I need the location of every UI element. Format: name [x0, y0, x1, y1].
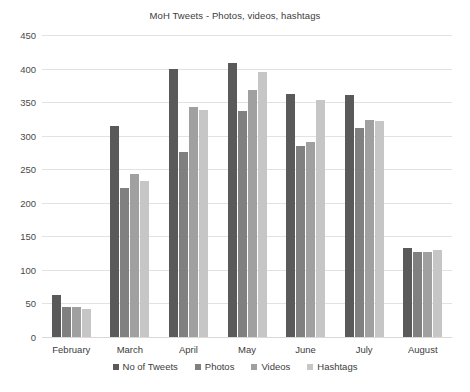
- bar[interactable]: [189, 107, 198, 337]
- y-axis-tick-label: 250: [0, 164, 36, 175]
- bar-group: June: [276, 35, 335, 337]
- legend-label: Hashtags: [317, 361, 357, 372]
- bars: [159, 35, 218, 337]
- bar[interactable]: [423, 252, 432, 337]
- bar[interactable]: [62, 307, 71, 337]
- legend-label: No of Tweets: [123, 361, 178, 372]
- bar[interactable]: [140, 181, 149, 337]
- bars: [276, 35, 335, 337]
- bar[interactable]: [375, 121, 384, 337]
- y-axis-tick-label: 50: [0, 298, 36, 309]
- chart-title: MoH Tweets - Photos, videos, hashtags: [0, 10, 470, 21]
- bar-group: April: [159, 35, 218, 337]
- bar[interactable]: [258, 72, 267, 337]
- bar-group: July: [335, 35, 394, 337]
- chart-legend: No of TweetsPhotosVideosHashtags: [0, 361, 470, 372]
- bar[interactable]: [433, 250, 442, 337]
- bar[interactable]: [110, 126, 119, 337]
- y-axis-tick-label: 300: [0, 130, 36, 141]
- bar[interactable]: [199, 110, 208, 337]
- bar[interactable]: [316, 100, 325, 337]
- bars: [42, 35, 101, 337]
- legend-item[interactable]: Photos: [195, 361, 235, 372]
- bar[interactable]: [179, 152, 188, 337]
- bar[interactable]: [355, 128, 364, 337]
- x-axis-tick-label: February: [42, 344, 101, 355]
- bar[interactable]: [228, 63, 237, 337]
- x-axis-tick-label: July: [335, 344, 394, 355]
- bars: [101, 35, 160, 337]
- legend-swatch-icon: [195, 364, 201, 370]
- bar-chart: MoH Tweets - Photos, videos, hashtags 05…: [0, 0, 470, 392]
- y-axis-tick-label: 150: [0, 231, 36, 242]
- bar-group: May: [218, 35, 277, 337]
- legend-swatch-icon: [251, 364, 257, 370]
- x-axis-tick-label: March: [101, 344, 160, 355]
- plot-area: FebruaryMarchAprilMayJuneJulyAugust: [42, 35, 452, 337]
- bar[interactable]: [248, 90, 257, 337]
- bar[interactable]: [52, 295, 61, 337]
- bar[interactable]: [238, 111, 247, 337]
- x-axis-tick-label: June: [276, 344, 335, 355]
- bar-group: March: [101, 35, 160, 337]
- bar[interactable]: [169, 69, 178, 337]
- bar-group: August: [393, 35, 452, 337]
- bar[interactable]: [345, 95, 354, 337]
- legend-label: Videos: [261, 361, 290, 372]
- legend-item[interactable]: Hashtags: [307, 361, 357, 372]
- bar[interactable]: [306, 142, 315, 337]
- y-axis-tick-label: 450: [0, 30, 36, 41]
- gridline: [42, 337, 452, 338]
- legend-item[interactable]: Videos: [251, 361, 290, 372]
- bar[interactable]: [286, 94, 295, 337]
- y-axis-tick-label: 350: [0, 97, 36, 108]
- bar[interactable]: [413, 252, 422, 337]
- bar[interactable]: [365, 120, 374, 337]
- bars: [335, 35, 394, 337]
- bar[interactable]: [72, 307, 81, 337]
- legend-label: Photos: [205, 361, 235, 372]
- bar[interactable]: [296, 146, 305, 337]
- y-axis-tick-label: 400: [0, 63, 36, 74]
- bar[interactable]: [130, 174, 139, 337]
- bars: [393, 35, 452, 337]
- legend-swatch-icon: [113, 364, 119, 370]
- legend-item[interactable]: No of Tweets: [113, 361, 178, 372]
- bar[interactable]: [82, 309, 91, 337]
- bars: [218, 35, 277, 337]
- bar[interactable]: [403, 248, 412, 337]
- x-axis-tick-label: August: [393, 344, 452, 355]
- bar-group: February: [42, 35, 101, 337]
- y-axis-tick-label: 200: [0, 197, 36, 208]
- x-axis-tick-label: April: [159, 344, 218, 355]
- legend-swatch-icon: [307, 364, 313, 370]
- y-axis-tick-label: 100: [0, 264, 36, 275]
- bar-groups: FebruaryMarchAprilMayJuneJulyAugust: [42, 35, 452, 337]
- y-axis-tick-label: 0: [0, 332, 36, 343]
- bar[interactable]: [120, 188, 129, 337]
- x-axis-tick-label: May: [218, 344, 277, 355]
